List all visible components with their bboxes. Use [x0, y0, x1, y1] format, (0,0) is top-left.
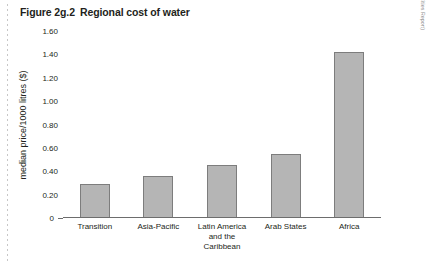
bar[interactable] [271, 154, 301, 218]
x-axis-label-line: Caribbean [190, 242, 254, 252]
y-axis-tick-7: 1.40 [42, 50, 58, 59]
left-margin-dotted-rule [7, 4, 8, 263]
x-axis-line [63, 217, 381, 218]
y-axis-tick-4: 0.80 [42, 120, 58, 129]
x-axis-label: Africa [317, 222, 381, 232]
x-axis-label: Asia-Pacific [127, 222, 191, 232]
y-axis-title: median price/1000 litres ($) [16, 31, 30, 218]
bar[interactable] [80, 184, 110, 218]
plot-area [63, 31, 381, 218]
x-axis-label-line: and the [190, 232, 254, 242]
x-axis-label-line: Asia-Pacific [127, 222, 191, 232]
x-axis-label-line: Arab States [254, 222, 318, 232]
y-axis-zero-tick [58, 218, 63, 219]
bar-slot [190, 31, 254, 218]
bar-series [63, 31, 381, 218]
x-axis-label-line: Transition [63, 222, 127, 232]
bar[interactable] [334, 52, 364, 218]
bar-slot [63, 31, 127, 218]
figure-number: Figure 2g.2 [20, 6, 75, 18]
figure-title-text: Regional cost of water [80, 6, 190, 18]
figure-title: Figure 2g.2Regional cost of water [20, 6, 190, 18]
bar[interactable] [143, 176, 173, 218]
y-axis-tick-0: 0 [50, 214, 54, 223]
x-axis-label: Transition [63, 222, 127, 232]
x-axis-label: Latin Americaand theCaribbean [190, 222, 254, 252]
y-axis-tick-labels: 00.200.400.600.801.001.201.401.60 [30, 31, 58, 218]
y-axis-tick-2: 0.40 [42, 167, 58, 176]
x-axis-label: Arab States [254, 222, 318, 232]
x-axis-label-line: Latin America [190, 222, 254, 232]
bar-slot [254, 31, 318, 218]
bar-slot [127, 31, 191, 218]
x-axis-label-line: Africa [317, 222, 381, 232]
x-axis-category-labels: TransitionAsia-PacificLatin Americaand t… [63, 222, 381, 264]
y-axis-tick-8: 1.60 [42, 27, 58, 36]
y-axis-tick-5: 1.00 [42, 97, 58, 106]
y-axis-tick-3: 0.60 [42, 143, 58, 152]
y-axis-tick-6: 1.20 [42, 73, 58, 82]
bar-slot [317, 31, 381, 218]
source-credit: Source: UNCHS 2001b (in UN State of Worl… [420, 0, 426, 30]
bar[interactable] [207, 165, 237, 218]
y-axis-tick-1: 0.20 [42, 190, 58, 199]
y-axis-title-text: median price/1000 litres ($) [18, 70, 28, 179]
